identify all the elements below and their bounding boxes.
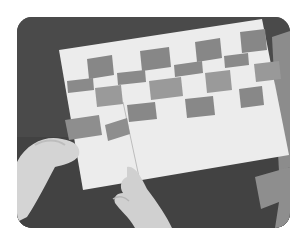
woven-square [195,38,222,62]
woven-square [95,85,123,107]
woven-square [87,55,114,79]
weaving-photo-illustration [17,17,290,228]
woven-square [185,96,215,118]
woven-square [149,77,183,100]
woven-square [239,86,264,108]
woven-square [205,70,232,93]
woven-square [240,29,267,53]
woven-strip [254,61,281,82]
woven-square [140,47,171,71]
weaving-photo [17,17,290,228]
woven-square [127,102,157,122]
